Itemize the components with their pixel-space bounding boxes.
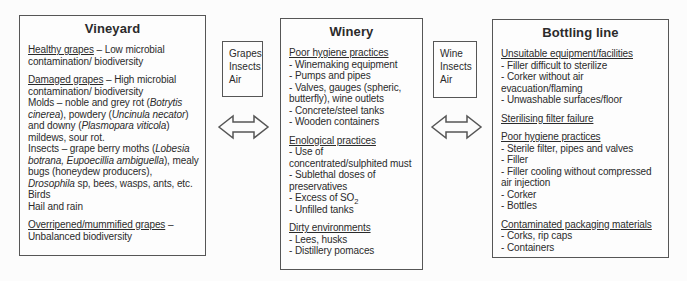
paragraph: Dirty environments bbox=[289, 222, 416, 234]
vineyard-content: Healthy grapes – Low microbial contamina… bbox=[20, 44, 205, 242]
paragraph: - Unwashable surfaces/floor bbox=[501, 94, 662, 106]
paragraph: Molds – noble and grey rot (Botrytis cin… bbox=[28, 97, 199, 143]
paragraph: Poor hygiene practices bbox=[289, 47, 416, 59]
winery-title: Winery bbox=[281, 19, 422, 39]
paragraph: - Lees, husks bbox=[289, 234, 416, 246]
paragraph: - Corker without air evacuation/flaming bbox=[501, 71, 662, 94]
paragraph: - Filler cooling without compressed air … bbox=[501, 166, 662, 189]
paragraph: Overripened/mummified grapes – Unbalance… bbox=[28, 219, 199, 242]
paragraph: Damaged grapes – High microbial contamin… bbox=[28, 74, 199, 97]
paragraph: Contaminated packaging materials bbox=[501, 219, 662, 231]
paragraph: - Corker bbox=[501, 189, 662, 201]
process-flow-diagram: Vineyard Healthy grapes – Low microbial … bbox=[0, 0, 687, 281]
paragraph: Sterilising filter failure bbox=[501, 113, 662, 125]
paragraph: Insects – grape berry moths (Lobesia bot… bbox=[28, 143, 199, 189]
paragraph: Birds bbox=[28, 189, 199, 201]
vineyard-title: Vineyard bbox=[20, 16, 205, 36]
wine-insects-air-box: Wine Insects Air bbox=[433, 41, 477, 98]
paragraph: Healthy grapes – Low microbial contamina… bbox=[28, 44, 199, 67]
paragraph: - Sublethal doses of preservatives bbox=[289, 169, 416, 192]
paragraph: Poor hygiene practices bbox=[501, 131, 662, 143]
paragraph: - Concrete/steel tanks bbox=[289, 105, 416, 117]
paragraph: - Distillery pomaces bbox=[289, 245, 416, 257]
bottling-line-title: Bottling line bbox=[493, 20, 668, 40]
winery-bottling-double-arrow-icon bbox=[430, 112, 483, 146]
paragraph: - Bottles bbox=[501, 200, 662, 212]
paragraph: Hail and rain bbox=[28, 201, 199, 213]
paragraph: - Wooden containers bbox=[289, 116, 416, 128]
vineyard-box: Vineyard Healthy grapes – Low microbial … bbox=[19, 15, 206, 256]
paragraph: - Excess of SO2 bbox=[289, 192, 416, 204]
paragraph: - Winemaking equipment bbox=[289, 59, 416, 71]
paragraph: - Valves, gauges (spheric, butterfly), w… bbox=[289, 82, 416, 105]
paragraph: - Pumps and pipes bbox=[289, 70, 416, 82]
paragraph: - Corks, rip caps bbox=[501, 230, 662, 242]
paragraph: - Containers bbox=[501, 242, 662, 254]
paragraph: - Filler difficult to sterilize bbox=[501, 60, 662, 72]
paragraph: - Sterile filter, pipes and valves bbox=[501, 143, 662, 155]
vineyard-winery-double-arrow-icon bbox=[217, 112, 270, 146]
paragraph: - Use of concentrated/sulphited must bbox=[289, 146, 416, 169]
paragraph: Enological practices bbox=[289, 135, 416, 147]
paragraph: - Unfilled tanks bbox=[289, 204, 416, 216]
paragraph: - Filler bbox=[501, 154, 662, 166]
winery-content: Poor hygiene practices- Winemaking equip… bbox=[281, 47, 422, 257]
bottling-line-content: Unsuitable equipment/facilities- Filler … bbox=[493, 48, 668, 253]
paragraph: Unsuitable equipment/facilities bbox=[501, 48, 662, 60]
winery-box: Winery Poor hygiene practices- Winemakin… bbox=[280, 18, 423, 270]
bottling-line-box: Bottling line Unsuitable equipment/facil… bbox=[492, 19, 669, 258]
grapes-insects-air-box: Grapes Insects Air bbox=[222, 41, 263, 97]
